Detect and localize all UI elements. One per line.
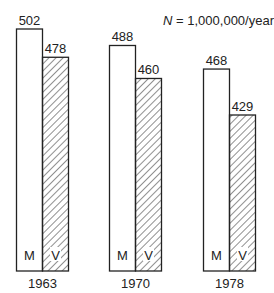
series-label: M	[211, 248, 222, 263]
bar-V-1963	[43, 57, 69, 271]
value-label: 478	[45, 41, 67, 56]
chart: 502M478V1963488M460V1970468M429V1978 N =…	[0, 0, 274, 293]
series-label: V	[51, 248, 60, 263]
value-label: 460	[138, 62, 160, 77]
category-label: 1963	[28, 276, 57, 291]
series-label: M	[24, 248, 35, 263]
annotation: N = 1,000,000/year	[163, 13, 274, 28]
series-label: V	[238, 248, 247, 263]
bar-M-1970	[110, 45, 136, 271]
category-label: 1978	[215, 276, 244, 291]
bar-M-1963	[17, 29, 43, 271]
bar-V-1970	[136, 78, 162, 271]
series-label: V	[144, 248, 153, 263]
value-label: 502	[19, 13, 41, 28]
category-label: 1970	[121, 276, 150, 291]
value-label: 429	[232, 99, 254, 114]
bar-M-1978	[204, 69, 230, 271]
series-label: M	[117, 248, 128, 263]
value-label: 488	[112, 29, 134, 44]
value-label: 468	[206, 53, 228, 68]
